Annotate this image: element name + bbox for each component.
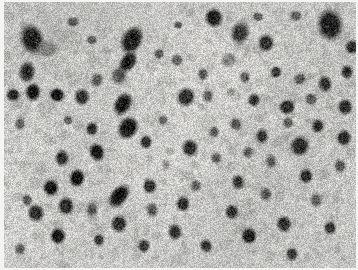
screenshot-viewport: Grayscale histological micrograph of bra… — [0, 0, 358, 270]
micrograph-frame — [0, 0, 358, 270]
histology-micrograph-image — [4, 2, 356, 268]
